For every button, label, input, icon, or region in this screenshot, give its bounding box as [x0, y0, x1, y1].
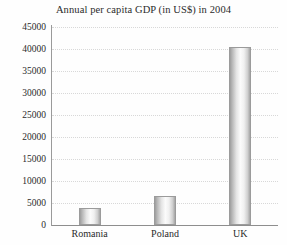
bar-romania	[79, 208, 101, 225]
x-tick-label-poland: Poland	[151, 228, 179, 239]
x-axis-tick-labels: RomaniaPolandUK	[52, 228, 278, 244]
y-tick-label: 10000	[0, 176, 46, 186]
x-tick-label-romania: Romania	[72, 228, 108, 239]
y-tick-label: 30000	[0, 88, 46, 98]
y-tick-label: 35000	[0, 66, 46, 76]
x-tick-label-uk: UK	[233, 228, 247, 239]
y-tick-label: 5000	[0, 198, 46, 208]
x-axis-baseline	[52, 225, 278, 226]
y-tick-label: 45000	[0, 22, 46, 32]
y-axis-tick-labels: 0500010000150002000025000300003500040000…	[0, 27, 46, 225]
plot-area	[52, 27, 278, 225]
bar-chart: Annual per capita GDP (in US$) in 2004 0…	[0, 0, 287, 245]
y-tick-label: 40000	[0, 44, 46, 54]
bars-layer	[52, 27, 278, 225]
y-tick-label: 0	[0, 220, 46, 230]
bar-poland	[154, 196, 176, 225]
y-tick-label: 15000	[0, 154, 46, 164]
chart-title: Annual per capita GDP (in US$) in 2004	[0, 4, 287, 15]
y-tick-label: 25000	[0, 110, 46, 120]
bar-uk	[229, 47, 251, 225]
y-tick-label: 20000	[0, 132, 46, 142]
